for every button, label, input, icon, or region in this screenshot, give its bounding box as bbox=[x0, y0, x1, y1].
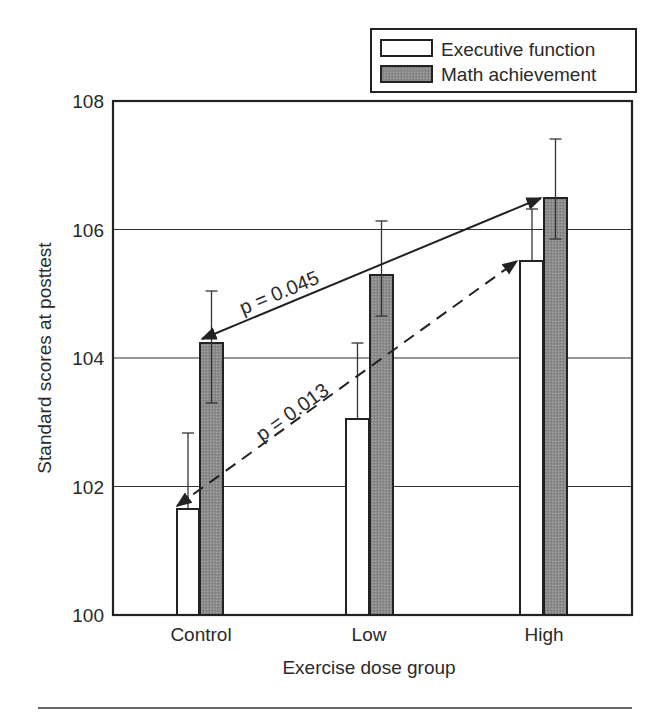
p-value-math: p = 0.045 bbox=[236, 266, 322, 318]
legend-label-executive: Executive function bbox=[441, 39, 595, 60]
bar-high-executive bbox=[520, 261, 543, 615]
legend-label-math: Math achievement bbox=[441, 64, 597, 85]
bar-high-math bbox=[544, 198, 567, 615]
y-axis-ticks: 108 106 104 102 100 bbox=[72, 91, 104, 626]
svg-text:High: High bbox=[524, 624, 563, 645]
bar-group-control bbox=[177, 291, 223, 615]
svg-text:106: 106 bbox=[72, 220, 104, 241]
svg-text:108: 108 bbox=[72, 91, 104, 112]
bar-low-math bbox=[370, 275, 393, 615]
bar-control-executive bbox=[177, 509, 199, 615]
y-axis-label: Standard scores at posttest bbox=[34, 242, 55, 474]
svg-text:104: 104 bbox=[72, 348, 104, 369]
x-axis-label: Exercise dose group bbox=[282, 657, 455, 678]
svg-text:Control: Control bbox=[170, 624, 231, 645]
p-value-executive: p = 0.013 bbox=[252, 379, 333, 446]
svg-text:102: 102 bbox=[72, 477, 104, 498]
legend-swatch-executive bbox=[381, 40, 432, 56]
bar-chart: Executive function Math achievement 108 … bbox=[0, 0, 661, 714]
bar-low-executive bbox=[346, 419, 369, 615]
svg-text:Low: Low bbox=[352, 624, 387, 645]
bar-group-low bbox=[346, 221, 393, 615]
legend: Executive function Math achievement bbox=[371, 29, 636, 92]
x-axis-ticks: Control Low High bbox=[170, 624, 563, 645]
svg-text:100: 100 bbox=[72, 605, 104, 626]
legend-swatch-math bbox=[381, 66, 432, 82]
bar-group-high bbox=[520, 139, 567, 615]
